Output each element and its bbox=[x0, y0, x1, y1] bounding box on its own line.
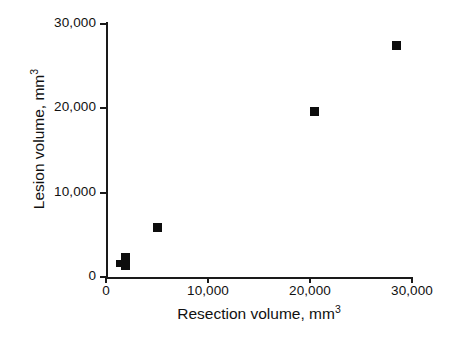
y-axis-title-text: Lesion volume, mm bbox=[30, 75, 47, 209]
y-ticklabel-wrap: 0 bbox=[22, 268, 96, 284]
x-ticklabel: 10,000 bbox=[168, 283, 248, 298]
data-point bbox=[153, 223, 162, 232]
data-point bbox=[310, 107, 319, 116]
y-axis-title: Lesion volume, mm3 bbox=[30, 14, 48, 264]
x-ticklabel: 0 bbox=[66, 283, 146, 298]
x-axis-title: Resection volume, mm3 bbox=[106, 305, 412, 323]
data-point bbox=[392, 41, 401, 50]
scatter-plot-figure: 010,00020,00030,000 010,00020,00030,000 … bbox=[0, 0, 468, 341]
x-axis-title-text: Resection volume, mm bbox=[177, 305, 335, 322]
y-axis-title-exponent: 3 bbox=[28, 69, 40, 75]
x-axis-line bbox=[105, 277, 413, 279]
y-ticklabel: 0 bbox=[26, 268, 96, 283]
data-point bbox=[121, 261, 130, 270]
plot-data-area bbox=[106, 24, 412, 277]
x-ticklabel: 30,000 bbox=[372, 283, 452, 298]
x-axis-title-exponent: 3 bbox=[335, 303, 341, 315]
x-ticklabel: 20,000 bbox=[270, 283, 350, 298]
